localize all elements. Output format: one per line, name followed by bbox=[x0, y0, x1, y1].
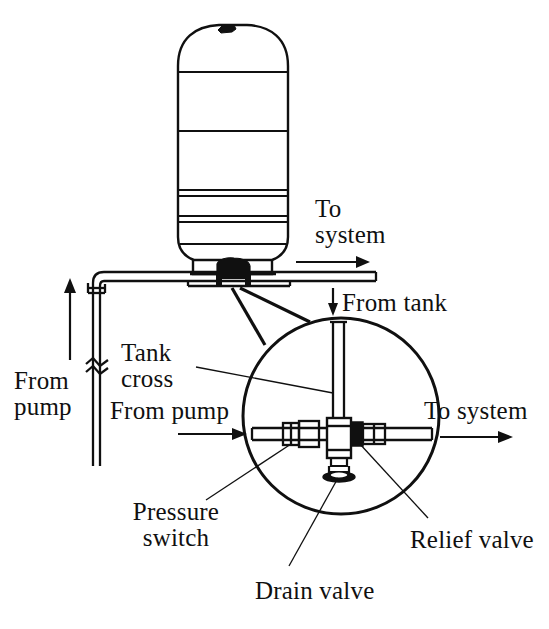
tank-outline bbox=[178, 25, 288, 260]
to-system-arrow-detail bbox=[440, 431, 513, 443]
detail-vertical-pipe bbox=[330, 322, 347, 418]
tank-seam-lines bbox=[178, 72, 288, 244]
label-to-system-top-line1: To bbox=[315, 196, 415, 222]
detail-left-pipe bbox=[252, 428, 327, 440]
label-tank-cross: Tank cross bbox=[121, 340, 231, 393]
relief-valve bbox=[351, 422, 385, 446]
pressure-tank bbox=[178, 25, 288, 260]
label-pressure-switch: Pressure switch bbox=[111, 499, 241, 552]
drain-valve bbox=[323, 458, 355, 482]
from-pump-arrow-left bbox=[64, 278, 76, 360]
pressure-switch bbox=[283, 421, 319, 447]
label-tank-cross-line1: Tank bbox=[121, 340, 231, 366]
label-relief-valve: Relief valve bbox=[410, 527, 534, 553]
callout-leader-lines bbox=[232, 288, 310, 345]
label-drain-valve: Drain valve bbox=[255, 578, 375, 604]
label-tank-cross-line2: cross bbox=[121, 366, 231, 392]
label-to-system-top-line2: system bbox=[315, 222, 415, 248]
diagram-page: To system From tank Tank cross From pump… bbox=[0, 0, 549, 629]
label-from-pump-left: From pump bbox=[14, 368, 100, 421]
label-from-pump-left-line1: From bbox=[14, 368, 100, 394]
from-pump-arrow-detail bbox=[178, 428, 247, 440]
detail-callout-circle bbox=[243, 318, 439, 514]
label-from-pump-left-line2: pump bbox=[14, 394, 100, 420]
label-to-system-detail: To system bbox=[424, 398, 528, 424]
to-system-arrow-top bbox=[296, 256, 370, 268]
label-from-pump-detail: From pump bbox=[110, 398, 229, 424]
label-pressure-switch-line1: Pressure bbox=[111, 499, 241, 525]
label-from-tank: From tank bbox=[342, 290, 447, 316]
detail-cross-body bbox=[327, 418, 351, 458]
label-to-system-top: To system bbox=[315, 196, 415, 249]
from-tank-arrow bbox=[328, 288, 338, 316]
label-pressure-switch-line2: switch bbox=[111, 525, 241, 551]
